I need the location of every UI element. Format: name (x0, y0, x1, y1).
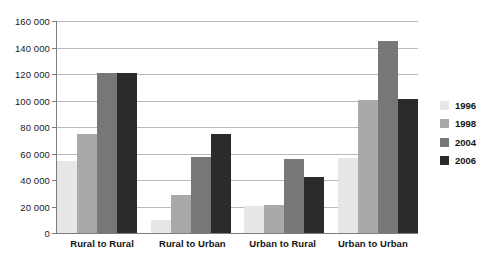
bar-2006[interactable] (117, 73, 137, 233)
y-axis-tick-mark (52, 74, 57, 75)
y-axis-tick-label: 120 000 (0, 69, 50, 80)
bar-2004[interactable] (378, 41, 398, 233)
legend-swatch-icon (440, 101, 449, 110)
bar-1998[interactable] (358, 100, 378, 233)
x-axis-category-label: Rural to Rural (57, 238, 147, 249)
x-axis-category-label: Urban to Rural (238, 238, 328, 249)
bar-2004[interactable] (191, 157, 211, 233)
legend-item-1996[interactable]: 1996 (440, 100, 476, 110)
y-axis-tick-mark (52, 233, 57, 234)
y-axis-tick-label: 40 000 (0, 175, 50, 186)
bar-group (151, 21, 231, 233)
y-axis-tick-mark (52, 127, 57, 128)
bar-1996[interactable] (57, 161, 77, 233)
bar-2006[interactable] (398, 99, 418, 233)
x-axis-line (57, 233, 418, 234)
x-axis-category-label: Rural to Urban (147, 238, 237, 249)
legend-swatch-icon (440, 119, 449, 128)
bar-1996[interactable] (244, 206, 264, 233)
bar-1998[interactable] (77, 134, 97, 233)
bar-1996[interactable] (151, 220, 171, 233)
bar-1996[interactable] (338, 158, 358, 233)
x-axis-category-labels: Rural to RuralRural to UrbanUrban to Rur… (57, 238, 418, 249)
bar-group (338, 21, 418, 233)
y-axis-tick-label: 20 000 (0, 201, 50, 212)
bar-2004[interactable] (284, 159, 304, 233)
legend-label: 1998 (455, 118, 476, 129)
y-axis-tick-label: 0 (0, 228, 50, 239)
legend-item-2006[interactable]: 2006 (440, 156, 476, 166)
x-axis-category-label: Urban to Urban (328, 238, 418, 249)
plot-area (57, 21, 418, 233)
bar-1998[interactable] (171, 195, 191, 233)
y-axis-tick-mark (52, 101, 57, 102)
y-axis-tick-labels: 020 00040 00060 00080 000100 000120 0001… (0, 0, 50, 266)
y-axis-tick-label: 60 000 (0, 148, 50, 159)
y-axis-tick-mark (52, 207, 57, 208)
bar-2004[interactable] (97, 73, 117, 233)
legend-label: 2004 (455, 137, 476, 148)
y-axis-tick-label: 140 000 (0, 42, 50, 53)
y-axis-tick-mark (52, 180, 57, 181)
legend-swatch-icon (440, 156, 449, 165)
grouped-bar-chart: 020 00040 00060 00080 000100 000120 0001… (0, 0, 500, 266)
bar-group (57, 21, 137, 233)
y-axis-tick-mark (52, 154, 57, 155)
y-axis-tick-mark (52, 48, 57, 49)
y-axis-tick-mark (52, 21, 57, 22)
y-axis-tick-label: 80 000 (0, 122, 50, 133)
legend-label: 2006 (455, 155, 476, 166)
y-axis-tick-label: 100 000 (0, 95, 50, 106)
bar-groups (57, 21, 418, 233)
bar-1998[interactable] (264, 205, 284, 233)
legend-item-2004[interactable]: 2004 (440, 137, 476, 147)
chart-legend: 1996199820042006 (440, 100, 476, 166)
legend-swatch-icon (440, 138, 449, 147)
bar-2006[interactable] (211, 134, 231, 233)
y-axis-tick-label: 160 000 (0, 16, 50, 27)
bar-2006[interactable] (304, 177, 324, 233)
bar-group (244, 21, 324, 233)
legend-item-1998[interactable]: 1998 (440, 119, 476, 129)
legend-label: 1996 (455, 100, 476, 111)
